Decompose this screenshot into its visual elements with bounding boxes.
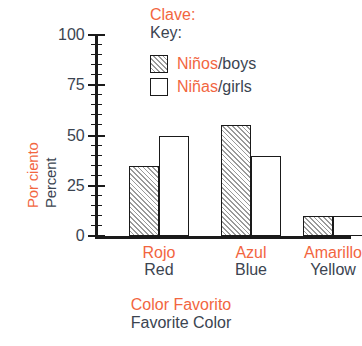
x-axis-title-english: Favorite Color [0,314,362,332]
y-tick-minor [91,94,102,95]
y-tick-minor [91,64,102,65]
legend-label: Niñas/girls [177,78,252,96]
legend-label-spanish: Niños [177,55,218,72]
y-tick-minor [91,205,102,206]
x-category-label-english: Yellow [304,261,362,278]
legend-label-english: /boys [218,55,256,72]
bar-girls [333,216,362,236]
legend-title-english: Key: [150,24,355,42]
legend: Clave: Key: Niños/boysNiñas/girls [150,6,355,99]
y-tick-major [88,235,105,237]
y-tick-major [88,34,105,36]
legend-swatch-hatched-icon [150,55,168,73]
bar-boys [129,166,159,236]
y-tick-minor [91,74,102,75]
x-axis-title-spanish: Color Favorito [0,296,362,314]
y-tick-major [88,135,105,137]
chart-figure: Por ciento Percent 1007550250 RojoRedAzu… [0,0,362,346]
x-category-label-english: Blue [235,261,267,278]
y-tick-minor [91,195,102,196]
y-tick-minor [91,155,102,156]
y-tick-minor [91,114,102,115]
legend-row: Niñas/girls [150,76,355,99]
y-tick-major [88,84,105,86]
bar-boys [221,125,251,236]
x-axis-line [95,236,351,239]
x-category-label: RojoRed [143,244,176,279]
y-tick-minor [91,54,102,55]
y-tick-minor [91,44,102,45]
legend-row: Niños/boys [150,53,355,76]
x-category-label: AmarilloYellow [304,244,362,279]
legend-items: Niños/boysNiñas/girls [150,53,355,99]
y-tick-minor [91,175,102,176]
x-category-label: AzulBlue [235,244,267,279]
x-category-label-spanish: Rojo [143,244,176,261]
y-axis-title-spanish: Por ciento [24,142,41,208]
x-category-label-english: Red [143,261,176,278]
x-category-label-spanish: Amarillo [304,244,362,261]
x-category-label-spanish: Azul [235,244,267,261]
legend-label-spanish: Niñas [177,78,218,95]
legend-title: Clave: Key: [150,6,355,42]
y-tick-major [88,185,105,187]
y-tick-minor [91,104,102,105]
bar-boys [303,216,333,236]
y-tick-minor [91,124,102,125]
x-axis-title: Color Favorito Favorite Color [0,296,362,332]
bar-girls [159,136,189,237]
y-tick-minor [91,225,102,226]
y-tick-minor [91,165,102,166]
legend-swatch-open-icon [150,78,168,96]
legend-title-spanish: Clave: [150,6,355,24]
bar-girls [251,156,281,236]
y-tick-label: 75 [41,76,85,94]
y-tick-label: 100 [41,26,85,44]
legend-label: Niños/boys [177,55,256,73]
legend-label-english: /girls [218,78,252,95]
y-tick-label: 50 [41,127,85,145]
y-tick-minor [91,145,102,146]
y-tick-label: 25 [41,177,85,195]
y-tick-minor [91,215,102,216]
y-tick-label: 0 [41,227,85,245]
